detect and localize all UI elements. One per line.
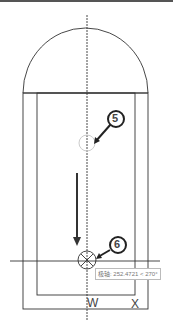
label-w: W: [87, 296, 98, 310]
callout-6-icon: [96, 237, 126, 259]
down-arrow-icon: [73, 173, 81, 246]
callout-6-number: 6: [114, 238, 120, 250]
callout-5-number: 5: [112, 112, 118, 124]
arc-top: [23, 28, 148, 93]
label-x: X: [131, 297, 139, 311]
callout-5-icon: [94, 111, 124, 144]
drawing-canvas[interactable]: [0, 0, 173, 334]
polar-tooltip: 极轴: 252.4721 < 270°: [95, 268, 161, 280]
